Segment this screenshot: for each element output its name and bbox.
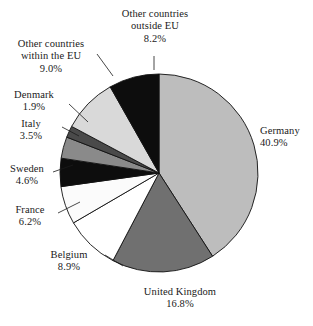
- slice-label-other-countries-within-the-eu: Other countries within the EU 9.0%: [1, 38, 101, 75]
- slice-label-name: France: [4, 204, 56, 216]
- slice-label-name: Belgium: [36, 249, 102, 261]
- slice-value-denmark: 1.9%: [2, 101, 66, 113]
- slice-label-line1: Other countries: [1, 38, 101, 50]
- slice-value-france: 6.2%: [4, 216, 56, 228]
- slice-value-sweden: 4.6%: [0, 175, 54, 187]
- slice-label-belgium: Belgium 8.9%: [36, 249, 102, 274]
- slice-label-united-kingdom: United Kingdom 16.8%: [118, 286, 242, 311]
- slice-label-name: United Kingdom: [118, 286, 242, 298]
- slice-value-united-kingdom: 16.8%: [118, 298, 242, 310]
- pie-slice-group: [60, 74, 258, 272]
- slice-label-other-countries-outside-eu: Other countries outside EU 8.2%: [97, 8, 213, 45]
- slice-label-line2: outside EU: [97, 20, 213, 32]
- slice-value-other-countries-outside-eu: 8.2%: [97, 33, 213, 45]
- pie-chart-figure: Other countries outside EU 8.2% Other co…: [0, 0, 313, 326]
- slice-value-belgium: 8.9%: [36, 261, 102, 273]
- slice-label-name: Denmark: [2, 89, 66, 101]
- slice-label-germany: Germany 40.9%: [260, 125, 313, 150]
- slice-label-name: Italy: [6, 118, 56, 130]
- slice-label-name: Germany: [260, 125, 313, 137]
- slice-label-france: France 6.2%: [4, 204, 56, 229]
- slice-label-line2: within the EU: [1, 50, 101, 62]
- slice-value-germany: 40.9%: [260, 137, 313, 149]
- slice-label-denmark: Denmark 1.9%: [2, 89, 66, 114]
- slice-value-other-countries-within-the-eu: 9.0%: [1, 63, 101, 75]
- slice-value-italy: 3.5%: [6, 130, 56, 142]
- slice-label-line1: Other countries: [97, 8, 213, 20]
- slice-label-italy: Italy 3.5%: [6, 118, 56, 143]
- slice-label-name: Sweden: [0, 163, 54, 175]
- slice-label-sweden: Sweden 4.6%: [0, 163, 54, 188]
